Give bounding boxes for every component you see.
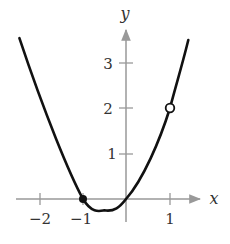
y-tick-label: 3 xyxy=(103,55,113,73)
graph: −2 −1 1 1 2 3 x y xyxy=(0,0,230,244)
x-tick-label: 1 xyxy=(165,210,175,228)
y-tick-label: 2 xyxy=(103,100,113,118)
y-axis-label: y xyxy=(119,4,130,23)
y-tick-label: 1 xyxy=(107,145,117,163)
open-point xyxy=(166,104,175,113)
x-tick-label: −1 xyxy=(70,210,92,228)
parabola-curve xyxy=(19,26,147,221)
x-tick-label: −2 xyxy=(29,210,51,228)
filled-point xyxy=(79,195,87,203)
x-axis-label: x xyxy=(209,189,218,208)
